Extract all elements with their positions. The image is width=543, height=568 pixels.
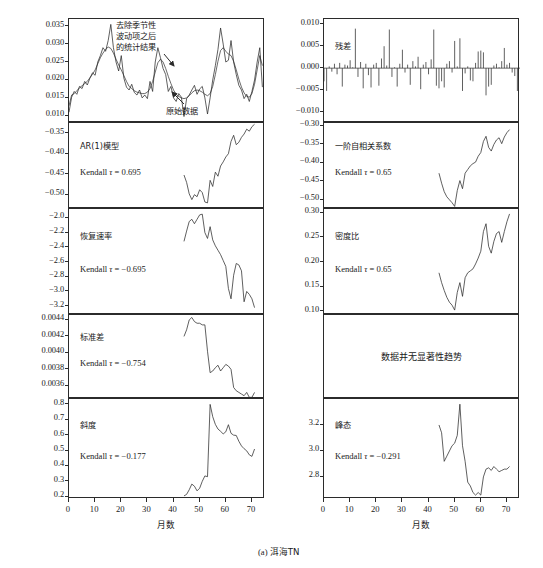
ytick-mark bbox=[65, 450, 69, 451]
ytick-label-density-ratio: 0.20 bbox=[281, 257, 319, 265]
ytick-mark bbox=[65, 25, 69, 26]
annotation-arrows bbox=[108, 18, 308, 128]
xtick-mark bbox=[454, 498, 455, 502]
plot-area-ar1 bbox=[69, 123, 265, 209]
ytick-label-recovery-rate: −2.2 bbox=[26, 227, 64, 235]
ytick-mark bbox=[65, 480, 69, 481]
xtick-label: 20 bbox=[363, 505, 387, 514]
ytick-mark bbox=[65, 434, 69, 435]
ytick-label-standard-deviation: 0.0044 bbox=[26, 314, 64, 322]
ytick-mark bbox=[320, 111, 324, 112]
panel-label-recovery-rate: 恢复速率 bbox=[80, 231, 112, 242]
ytick-label-standard-deviation: 0.0038 bbox=[26, 364, 64, 372]
ytick-mark bbox=[320, 143, 324, 144]
ytick-mark bbox=[320, 67, 324, 68]
ytick-label-density-ratio: 0.10 bbox=[281, 306, 319, 314]
ytick-mark bbox=[65, 217, 69, 218]
kendall-stat-ar1: Kendall τ = 0.695 bbox=[80, 168, 141, 177]
ytick-mark bbox=[320, 310, 324, 311]
ytick-label-skewness: 0.3 bbox=[26, 476, 64, 484]
ytick-mark bbox=[65, 79, 69, 80]
xtick-label: 10 bbox=[337, 505, 361, 514]
panel-label-ar1: AR(1)模型 bbox=[80, 141, 119, 152]
series-line bbox=[439, 130, 510, 207]
ytick-mark bbox=[65, 173, 69, 174]
xtick-label: 50 bbox=[187, 505, 211, 514]
xtick-mark bbox=[120, 498, 121, 502]
ytick-mark bbox=[320, 89, 324, 90]
ytick-mark bbox=[65, 276, 69, 277]
ytick-mark bbox=[320, 286, 324, 287]
ytick-mark bbox=[320, 424, 324, 425]
ytick-mark bbox=[65, 290, 69, 291]
xtick-label: 0 bbox=[311, 505, 335, 514]
xtick-mark bbox=[68, 498, 69, 502]
ytick-label-recovery-rate: −2.8 bbox=[26, 271, 64, 279]
ytick-label-density-ratio: 0.25 bbox=[281, 232, 319, 240]
xtick-label: 40 bbox=[416, 505, 440, 514]
x-axis-label: 月数 bbox=[391, 518, 451, 530]
xtick-mark bbox=[94, 498, 95, 502]
ytick-label-timeseries: 0.030 bbox=[26, 39, 64, 47]
ytick-label-autocorrelation: −0.45 bbox=[281, 176, 319, 184]
ytick-label-recovery-rate: −2.4 bbox=[26, 242, 64, 250]
ytick-label-skewness: 0.2 bbox=[26, 491, 64, 499]
ytick-mark bbox=[65, 115, 69, 116]
ytick-label-skewness: 0.8 bbox=[26, 399, 64, 407]
ytick-label-kurtosis: 3.0 bbox=[281, 445, 319, 453]
xtick-label: 60 bbox=[213, 505, 237, 514]
series-line bbox=[184, 317, 255, 397]
xtick-mark bbox=[480, 498, 481, 502]
annotation-arrow bbox=[172, 92, 184, 104]
xtick-label: 30 bbox=[389, 505, 413, 514]
ytick-mark bbox=[65, 465, 69, 466]
kendall-stat-kurtosis: Kendall τ = −0.291 bbox=[335, 452, 401, 461]
panel-label-residuals: 残差 bbox=[335, 41, 351, 52]
kendall-stat-standard-deviation: Kendall τ = −0.754 bbox=[80, 359, 146, 368]
ytick-mark bbox=[65, 153, 69, 154]
xtick-label: 10 bbox=[82, 505, 106, 514]
figure-caption: (a) 洱海TN bbox=[258, 545, 299, 557]
xtick-mark bbox=[251, 498, 252, 502]
ytick-mark bbox=[65, 97, 69, 98]
caption-prefix: (a) bbox=[258, 547, 270, 557]
ytick-label-density-ratio: 0.30 bbox=[281, 207, 319, 215]
ytick-label-kurtosis: 2.8 bbox=[281, 471, 319, 479]
ytick-label-standard-deviation: 0.0042 bbox=[26, 331, 64, 339]
kendall-stat-autocorrelation: Kendall τ = 0.65 bbox=[335, 168, 392, 177]
xtick-label: 30 bbox=[134, 505, 158, 514]
ytick-mark bbox=[65, 403, 69, 404]
ytick-label-ar1: −0.45 bbox=[26, 169, 64, 177]
plot-area-residuals bbox=[324, 19, 520, 123]
xtick-mark bbox=[323, 498, 324, 502]
ytick-mark bbox=[65, 43, 69, 44]
ytick-mark bbox=[320, 476, 324, 477]
xtick-mark bbox=[375, 498, 376, 502]
ytick-label-standard-deviation: 0.0036 bbox=[26, 380, 64, 388]
ytick-label-ar1: −0.40 bbox=[26, 148, 64, 156]
ytick-label-skewness: 0.7 bbox=[26, 414, 64, 422]
ytick-label-ar1: −0.50 bbox=[26, 189, 64, 197]
ytick-mark bbox=[65, 305, 69, 306]
annotation-arrow bbox=[164, 54, 174, 66]
ytick-label-timeseries: 0.015 bbox=[26, 92, 64, 100]
series-line bbox=[184, 404, 255, 496]
series-line bbox=[184, 124, 255, 203]
ytick-mark bbox=[320, 261, 324, 262]
xtick-mark bbox=[225, 498, 226, 502]
ytick-label-skewness: 0.4 bbox=[26, 460, 64, 468]
xtick-mark bbox=[173, 498, 174, 502]
ytick-mark bbox=[320, 125, 324, 126]
xtick-label: 40 bbox=[161, 505, 185, 514]
no-trend-message: 数据并无显著性趋势 bbox=[381, 350, 462, 363]
series-line bbox=[439, 404, 510, 495]
ytick-label-recovery-rate: −2.6 bbox=[26, 257, 64, 265]
panel-label-autocorrelation: 一阶自相关系数 bbox=[335, 141, 391, 152]
ytick-label-timeseries: 0.010 bbox=[26, 110, 64, 118]
ytick-mark bbox=[65, 385, 69, 386]
xtick-label: 70 bbox=[494, 505, 518, 514]
ytick-mark bbox=[65, 232, 69, 233]
kendall-stat-skewness: Kendall τ = −0.177 bbox=[80, 452, 146, 461]
ytick-mark bbox=[320, 199, 324, 200]
ytick-mark bbox=[320, 162, 324, 163]
